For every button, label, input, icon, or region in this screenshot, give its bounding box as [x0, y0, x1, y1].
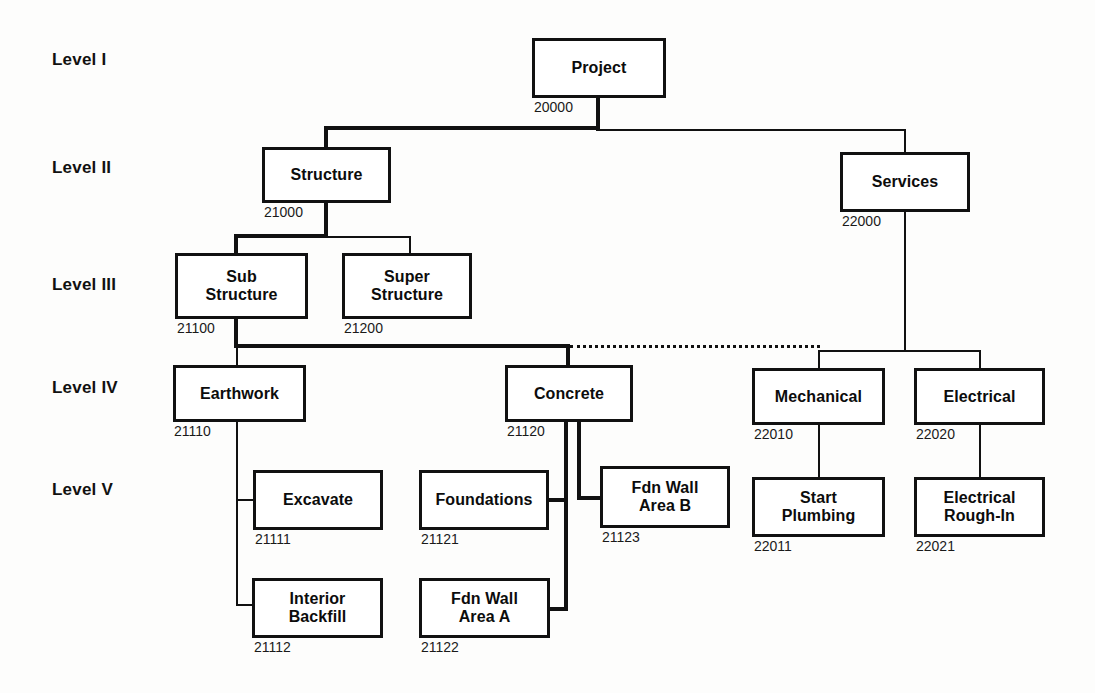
connector-earthwork-spine — [236, 422, 238, 605]
node-super-structure-code: 21200 — [344, 320, 383, 336]
connector-services-bar — [818, 350, 981, 352]
node-fdn-wall-area-a-code: 21122 — [421, 639, 459, 655]
connector-electrical-roughin-drop — [979, 425, 981, 477]
node-structure-label: Structure — [286, 166, 366, 184]
node-structure-code: 21000 — [264, 204, 303, 220]
node-super-structure[interactable]: Super Structure — [342, 253, 472, 319]
node-start-plumbing-label: Start Plumbing — [778, 489, 860, 525]
connector-foundations-branch — [548, 498, 568, 502]
node-project-label: Project — [568, 59, 631, 77]
node-concrete-code: 21120 — [507, 423, 545, 439]
connector-project-bar-right — [596, 129, 906, 131]
node-earthwork-code: 21110 — [174, 423, 211, 439]
connector-services-drop — [904, 129, 906, 153]
node-project-code: 20000 — [534, 99, 573, 115]
node-start-plumbing[interactable]: Start Plumbing — [752, 477, 885, 537]
node-electrical-rough-in-code: 22021 — [916, 538, 955, 554]
node-concrete-label: Concrete — [530, 385, 608, 403]
connector-super-structure-drop — [409, 236, 411, 254]
level-label-5: Level V — [52, 480, 113, 500]
node-project[interactable]: Project — [532, 38, 666, 98]
level-label-2: Level II — [52, 158, 111, 178]
node-fdn-wall-area-b-label: Fdn Wall Area B — [628, 479, 703, 515]
node-electrical[interactable]: Electrical — [914, 368, 1045, 425]
node-mechanical-code: 22010 — [754, 426, 793, 442]
node-electrical-rough-in-label: Electrical Rough-In — [939, 489, 1019, 525]
level-label-3: Level III — [52, 275, 116, 295]
node-fdn-wall-area-a-label: Fdn Wall Area A — [447, 590, 522, 626]
connector-services-stem — [904, 212, 906, 352]
node-electrical-label: Electrical — [939, 388, 1019, 406]
connector-electrical-drop — [979, 350, 981, 368]
node-services-label: Services — [868, 173, 943, 191]
node-interior-backfill-label: Interior Backfill — [285, 590, 351, 626]
node-foundations[interactable]: Foundations — [419, 470, 549, 530]
connector-project-bar-left — [324, 126, 600, 130]
connector-sub-structure-stem — [234, 318, 238, 346]
node-sub-structure-label: Sub Structure — [201, 268, 281, 304]
connector-sub-structure-drop — [234, 234, 238, 254]
node-foundations-label: Foundations — [431, 491, 536, 509]
node-fdn-wall-area-b-code: 21123 — [602, 529, 640, 545]
node-electrical-code: 22020 — [916, 426, 955, 442]
node-excavate-code: 21111 — [255, 531, 291, 547]
node-sub-structure[interactable]: Sub Structure — [175, 253, 308, 319]
node-foundations-code: 21121 — [421, 531, 459, 547]
node-earthwork-label: Earthwork — [196, 385, 283, 403]
level-label-4: Level IV — [52, 378, 118, 398]
node-fdn-wall-area-b[interactable]: Fdn Wall Area B — [600, 466, 730, 528]
node-structure[interactable]: Structure — [262, 147, 391, 203]
node-fdn-wall-area-a[interactable]: Fdn Wall Area A — [419, 578, 550, 638]
node-services[interactable]: Services — [840, 152, 970, 212]
connector-dotted-link — [570, 345, 820, 348]
node-super-structure-label: Super Structure — [367, 268, 447, 304]
connector-structure-drop — [324, 126, 328, 148]
node-services-code: 22000 — [842, 213, 881, 229]
connector-project-stem — [596, 98, 600, 129]
connector-concrete-spine-b — [577, 422, 581, 498]
node-interior-backfill-code: 21112 — [254, 639, 291, 655]
node-start-plumbing-code: 22011 — [754, 538, 792, 554]
node-excavate[interactable]: Excavate — [253, 470, 383, 530]
connector-structure-bar-right — [326, 236, 411, 238]
connector-fdnwall-b-branch — [577, 496, 601, 500]
connector-mechanical-drop — [818, 350, 820, 368]
connector-structure-stem — [324, 202, 328, 236]
connector-substructure-bar — [234, 344, 570, 348]
node-earthwork[interactable]: Earthwork — [173, 365, 306, 422]
connector-fdnwall-a-branch — [548, 607, 568, 611]
node-mechanical-label: Mechanical — [771, 388, 866, 406]
node-sub-structure-code: 21100 — [177, 320, 215, 336]
node-mechanical[interactable]: Mechanical — [752, 368, 885, 425]
connector-start-plumbing-drop — [818, 425, 820, 477]
level-label-1: Level I — [52, 50, 106, 70]
wbs-diagram: Level I Level II Level III Level IV Leve… — [0, 0, 1095, 693]
node-interior-backfill[interactable]: Interior Backfill — [252, 578, 383, 638]
node-concrete[interactable]: Concrete — [505, 365, 633, 422]
node-electrical-rough-in[interactable]: Electrical Rough-In — [914, 477, 1045, 537]
node-excavate-label: Excavate — [279, 491, 357, 509]
connector-earthwork-drop — [236, 344, 238, 366]
connector-concrete-spine-a — [564, 422, 568, 611]
connector-structure-bar-left — [234, 234, 328, 238]
